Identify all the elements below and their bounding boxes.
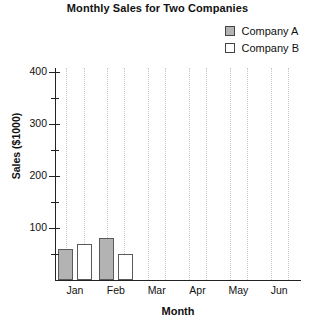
legend-swatch-company-b [225,43,235,53]
chart-title: Monthly Sales for Two Companies [0,2,315,14]
bar-feb-company-b [118,254,133,280]
x-axis-line [55,280,301,281]
y-tick-minor [51,98,59,99]
y-axis-title: Sales ($1000) [10,86,22,206]
legend-swatch-company-a [225,26,235,36]
y-axis-line [55,68,56,281]
y-tick-major [49,228,60,229]
legend-label-company-a: Company A [242,25,299,37]
legend-label-company-b: Company B [242,42,299,54]
y-tick-minor [51,202,59,203]
plot-area [55,68,300,280]
bar-jan-company-a [58,249,73,280]
y-tick-minor [51,150,59,151]
y-tick-major [49,72,60,73]
bar-group [55,68,300,280]
y-tick-label: 400 [7,65,47,77]
bar-feb-company-a [99,238,114,280]
y-tick-minor [51,254,59,255]
bar-chart: Monthly Sales for Two Companies Company … [0,0,315,326]
y-tick-major [49,176,60,177]
y-tick-major [49,124,60,125]
x-tick-label-jun: Jun [254,284,304,296]
chart-legend: Company A Company B [225,24,299,55]
y-tick-label: 100 [7,221,47,233]
legend-item-company-b: Company B [225,41,299,55]
legend-item-company-a: Company A [225,24,299,38]
bar-jan-company-b [77,244,92,280]
x-axis-title: Month [55,305,301,317]
